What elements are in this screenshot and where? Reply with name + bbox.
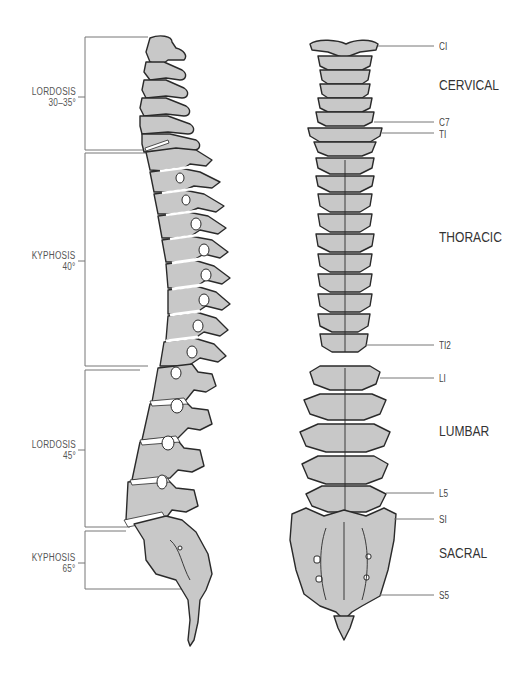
region-label-thoracic: THORACIC	[439, 230, 502, 245]
curve-name: KYPHOSIS	[32, 552, 76, 563]
thoracic-vertebrae	[316, 158, 374, 352]
spine-illustration: .bone { fill:#c8c8c8; stroke:#2a2a2a; st…	[0, 0, 522, 673]
curve-angle: 45°	[32, 450, 76, 461]
level-label-s1: SI	[439, 514, 447, 525]
spine-diagram: .bone { fill:#c8c8c8; stroke:#2a2a2a; st…	[0, 0, 522, 673]
sacrum	[290, 508, 396, 620]
posterior-spine	[290, 40, 396, 640]
curve-angle: 40°	[32, 261, 76, 272]
lumbar-vertebrae	[300, 366, 390, 512]
region-label-lumbar: LUMBAR	[439, 424, 489, 439]
level-label-t12: TI2	[439, 340, 451, 351]
curve-name: LORDOSIS	[32, 439, 76, 450]
curve-name: KYPHOSIS	[32, 250, 76, 261]
level-label-l1: LI	[439, 373, 446, 384]
curve-label-sacral-kyphosis: KYPHOSIS 65°	[32, 552, 76, 574]
region-label-cervical: CERVICAL	[439, 78, 499, 93]
level-label-c1: CI	[439, 41, 447, 52]
lateral-spine	[124, 36, 230, 646]
coccyx	[334, 616, 354, 640]
curve-label-thoracic-kyphosis: KYPHOSIS 40°	[32, 250, 76, 272]
level-label-c7: C7	[439, 117, 449, 128]
region-label-sacral: SACRAL	[439, 546, 487, 561]
level-label-t1: TI	[439, 129, 446, 140]
curve-label-lumbar-lordosis: LORDOSIS 45°	[32, 439, 76, 461]
curve-angle: 65°	[32, 563, 76, 574]
curve-name: LORDOSIS	[32, 86, 76, 97]
curve-label-cervical-lordosis: LORDOSIS 30–35°	[32, 86, 76, 108]
level-label-l5: L5	[439, 488, 448, 499]
curve-angle: 30–35°	[32, 97, 76, 108]
level-label-s5: S5	[439, 590, 449, 601]
